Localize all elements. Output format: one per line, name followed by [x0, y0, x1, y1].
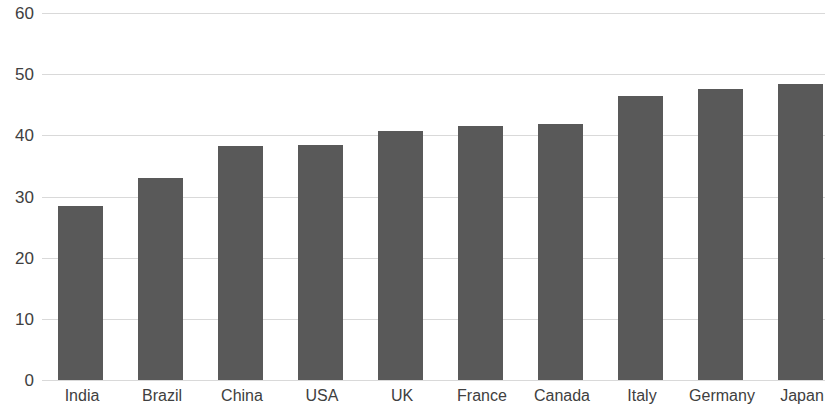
bar: [618, 96, 663, 380]
bar: [458, 126, 503, 380]
y-axis-tick-label: 40: [0, 127, 34, 144]
bar: [698, 89, 743, 380]
bar: [298, 145, 343, 380]
x-axis: IndiaBrazilChinaUSAUKFranceCanadaItalyGe…: [42, 384, 825, 418]
x-axis-tick-label: Italy: [602, 386, 682, 407]
bar: [778, 84, 823, 380]
bar: [538, 124, 583, 380]
y-axis-tick-label: 60: [0, 5, 34, 22]
y-axis-tick-label: 0: [0, 372, 34, 389]
y-axis-tick-label: 20: [0, 249, 34, 266]
x-axis-tick-label: USA: [282, 386, 362, 407]
y-axis: 0102030405060: [0, 0, 34, 418]
x-axis-tick-label: UK: [362, 386, 442, 407]
x-axis-tick-label: France: [442, 386, 522, 407]
bar: [138, 178, 183, 380]
x-axis-tick-label: Brazil: [122, 386, 202, 407]
y-axis-tick-label: 30: [0, 188, 34, 205]
bar: [218, 146, 263, 380]
y-axis-tick-label: 50: [0, 66, 34, 83]
x-axis-tick-label: China: [202, 386, 282, 407]
bar: [378, 131, 423, 380]
bar-chart: 0102030405060 IndiaBrazilChinaUSAUKFranc…: [0, 0, 832, 418]
y-axis-tick-label: 10: [0, 310, 34, 327]
x-axis-tick-label: India: [42, 386, 122, 407]
bar: [58, 206, 103, 380]
gridline: [42, 380, 825, 381]
x-axis-tick-label: Canada: [522, 386, 602, 407]
bars-layer: [42, 13, 825, 380]
x-axis-tick-label: Germany: [682, 386, 762, 407]
x-axis-tick-label: Japan: [762, 386, 832, 407]
